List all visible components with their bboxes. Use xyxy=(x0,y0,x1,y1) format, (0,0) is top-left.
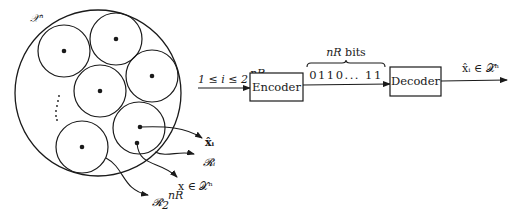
space-label: 𝒳ⁿ xyxy=(30,12,43,25)
codeword-dot-1 xyxy=(62,49,67,54)
diagram-canvas: 𝒳ⁿ x̂ᵢ xyxy=(0,0,510,222)
codeword-dot-3 xyxy=(150,74,155,79)
space-partition-figure: 𝒳ⁿ x̂ᵢ xyxy=(15,10,215,212)
svg-text:1 ≤ i ≤ 2: 1 ≤ i ≤ 2 xyxy=(198,73,248,86)
last-region-label: 𝓡 2 nR xyxy=(152,189,183,212)
bits-caption: nR bits xyxy=(326,46,366,59)
continuation-dots xyxy=(55,95,60,121)
bit-string: 0110... 11 xyxy=(309,68,383,82)
channel-arrow xyxy=(303,84,390,85)
codeword-dot-2 xyxy=(114,37,119,42)
codeword-label: x̂ᵢ xyxy=(205,136,215,149)
rate-distortion-diagram: 𝒳ⁿ x̂ᵢ xyxy=(0,0,510,222)
output-label: x̂ᵢ ∈ 𝒳̂ⁿ xyxy=(462,62,500,75)
coding-block-diagram: 1 ≤ i ≤ 2 nR Encoder nR bits 0110... 11 … xyxy=(198,46,507,101)
codeword-dot-last xyxy=(80,145,85,150)
region-pointer-arrow xyxy=(155,152,194,154)
region-circles xyxy=(38,13,178,173)
source-point-pointer-arrow xyxy=(137,143,177,177)
decoder-label: Decoder xyxy=(391,74,441,88)
codeword-dot-4 xyxy=(98,89,103,94)
bits-brace xyxy=(307,60,385,67)
svg-text:nR: nR xyxy=(168,189,183,202)
space-boundary-circle xyxy=(15,10,181,176)
output-arrow xyxy=(441,80,507,81)
region-label: 𝓡ᵢ xyxy=(203,156,215,169)
encoder-label: Encoder xyxy=(252,80,301,94)
